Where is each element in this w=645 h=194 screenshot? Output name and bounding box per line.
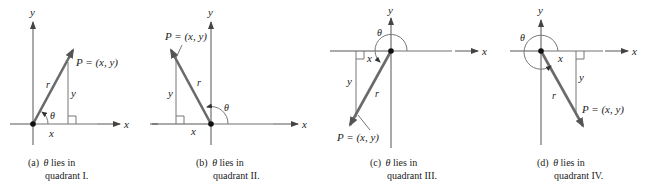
theta-label: θ [520, 32, 525, 43]
theta-label: θ [50, 110, 55, 121]
caption-line2: quadrant III. [387, 170, 437, 181]
r-label: r [46, 79, 50, 90]
point-leader-line [358, 115, 370, 130]
caption-line1: (b) θ lies in [196, 157, 244, 169]
theta-label: θ [377, 27, 382, 38]
right-angle-mark [356, 51, 364, 59]
theta-label: θ [224, 102, 229, 113]
y-label: y [70, 87, 76, 99]
theta-arc [42, 112, 48, 124]
point-label: P = (x, y) [75, 56, 118, 69]
origin-point [208, 121, 214, 127]
origin-point [538, 48, 544, 54]
x-label: x [48, 127, 54, 139]
y-label: y [346, 75, 352, 87]
quadrant-angle-figure: y x θ r y x P = (x, y) (a) θ lies in qua… [0, 0, 645, 194]
caption-line1: (a) θ lies in [28, 157, 75, 169]
point-leader-line [176, 45, 182, 58]
right-angle-mark [68, 116, 76, 124]
y-label: y [167, 87, 173, 99]
caption-line2: quadrant I. [45, 170, 88, 181]
x-axis-label: x [631, 45, 637, 57]
x-label: x [366, 52, 372, 64]
x-label: x [557, 52, 563, 64]
caption-line1: (d) θ lies in [537, 157, 585, 169]
r-label: r [197, 77, 201, 88]
y-axis-label: y [387, 4, 393, 16]
origin-point [388, 48, 394, 54]
panel-c: y x θ r y x P = (x, y) (c) θ lies in qua… [330, 4, 487, 181]
r-label: r [552, 90, 556, 101]
x-label: x [190, 125, 196, 137]
panel-d: y x θ r y x P = (x, y) (d) θ lies in qua… [510, 4, 637, 181]
caption-line1: (c) θ lies in [370, 157, 417, 169]
x-axis-label: x [123, 118, 129, 130]
origin-point [30, 121, 36, 127]
point-label: P = (x, y) [164, 30, 207, 43]
x-axis-label: x [481, 45, 487, 57]
point-label: P = (x, y) [336, 131, 379, 144]
right-angle-mark [176, 116, 184, 124]
r-label: r [375, 88, 379, 99]
panel-b: y x θ r y x P = (x, y) (b) θ lies in qua… [152, 6, 307, 181]
right-angle-mark [576, 51, 584, 59]
y-axis-label: y [29, 6, 35, 18]
point-label: P = (x, y) [581, 103, 624, 116]
y-axis-label: y [537, 4, 543, 16]
caption-line2: quadrant IV. [554, 170, 603, 181]
y-label: y [578, 71, 584, 83]
y-axis-label: y [207, 6, 213, 18]
caption-line2: quadrant II. [213, 170, 260, 181]
terminal-side-vector [171, 50, 211, 124]
x-axis-label: x [301, 118, 307, 130]
panel-a: y x θ r y x P = (x, y) (a) θ lies in qua… [10, 6, 158, 181]
